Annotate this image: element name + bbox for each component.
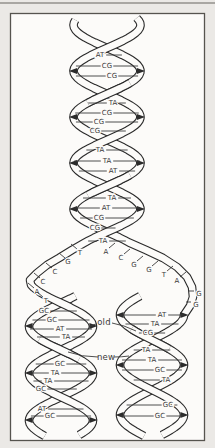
dna-helix-diagram: ATCGCGTACGCGCGTATAATTAATCGCGTAGCGCATTAGC…	[0, 0, 215, 448]
base-pair-label: AT	[102, 204, 111, 212]
base-pair-label: GC	[45, 412, 55, 420]
unpaired-base-label: G	[193, 301, 198, 309]
old-strand-label: old	[97, 317, 111, 327]
base-pair-label: TA	[161, 376, 171, 384]
unpaired-base-label: C	[119, 254, 124, 262]
base-pair-label: TA	[95, 146, 105, 154]
base-pair-label: TA	[61, 333, 71, 341]
base-pair-label: GC	[39, 307, 49, 315]
base-pair-label: TA	[98, 237, 108, 245]
unpaired-base-label: G	[65, 258, 70, 266]
new-strand-label: new	[97, 352, 115, 362]
base-pair-label: CG	[94, 118, 104, 126]
base-pair-label: GC	[155, 366, 165, 374]
base-pair-label: TA	[50, 369, 60, 377]
base-pair-label: CG	[102, 109, 112, 117]
base-pair-label: CG	[143, 329, 153, 337]
base-pair-label: GC	[163, 401, 173, 409]
unpaired-base-label: A	[104, 248, 109, 256]
unpaired-base-label: G	[146, 266, 151, 274]
unpaired-base-label: T	[43, 297, 49, 305]
base-pair-label: GC	[36, 385, 46, 393]
base-pair-label: CG	[102, 62, 112, 70]
unpaired-base-label: G	[196, 290, 201, 298]
base-pair-label: AT	[109, 167, 118, 175]
page: ATCGCGTACGCGCGTATAATTAATCGCGTAGCGCATTAGC…	[0, 0, 215, 448]
base-pair-label: CG	[107, 72, 117, 80]
base-pair-label: TA	[108, 99, 118, 107]
unpaired-base-label: T	[77, 249, 83, 257]
base-pair-label: CG	[90, 224, 100, 232]
base-pair-label: GC	[155, 412, 165, 420]
base-pair-label: GC	[55, 360, 65, 368]
base-pair-label: TA	[150, 320, 160, 328]
unpaired-base-label: T	[161, 271, 167, 279]
unpaired-base-label: A	[175, 277, 180, 285]
unpaired-base-label: G	[131, 261, 136, 269]
base-pair-label: CG	[90, 127, 100, 135]
base-pair-label: TA	[141, 346, 151, 354]
base-pair-label: CG	[94, 214, 104, 222]
base-pair-label: AT	[56, 325, 65, 333]
base-pair-label: AT	[96, 51, 105, 59]
base-pair-label: AT	[158, 311, 167, 319]
base-pair-label: TA	[43, 377, 53, 385]
base-pair-label: GC	[47, 316, 57, 324]
base-pair-label: TA	[102, 157, 112, 165]
base-pair-label: TA	[107, 194, 117, 202]
unpaired-base-label: C	[41, 278, 46, 286]
unpaired-base-label: C	[53, 268, 58, 276]
base-pair-label: TA	[147, 356, 157, 364]
